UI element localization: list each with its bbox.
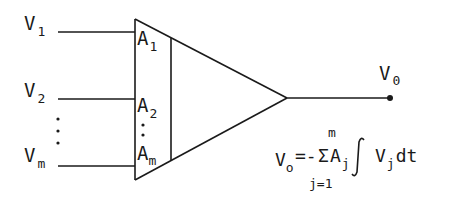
output-label: V0	[379, 62, 400, 88]
input-ellipsis	[56, 117, 59, 144]
transfer-equation: Vo =- Σ m j=1 Aj Vjdt	[275, 125, 417, 191]
equation-equals-minus: =-	[295, 145, 317, 166]
input-lines	[58, 32, 135, 166]
gain-label-m: Am	[137, 142, 156, 168]
equation-sigma: Σ	[318, 145, 329, 166]
equation-lhs: Vo	[275, 149, 294, 175]
integrator-diagram: V1 V2 Vm A1 A2 Am V0 Vo =- Σ m j=1 Aj Vj…	[0, 0, 454, 213]
input-label-m: Vm	[24, 144, 45, 171]
equation-coefficient: Aj	[330, 145, 350, 171]
equation-upper-limit: m	[328, 125, 336, 140]
integral-sign-icon	[352, 138, 364, 175]
equation-lower-limit: j=1	[309, 176, 332, 191]
gain-label-1: A1	[137, 27, 157, 54]
gain-label-2: A2	[137, 94, 157, 121]
amplifier-triangle	[135, 19, 287, 180]
equation-integrand: Vjdt	[375, 145, 417, 171]
input-label-1: V1	[24, 12, 45, 39]
input-label-2: V2	[24, 79, 45, 106]
output-terminal-dot	[387, 95, 393, 101]
gain-ellipsis	[141, 123, 144, 136]
